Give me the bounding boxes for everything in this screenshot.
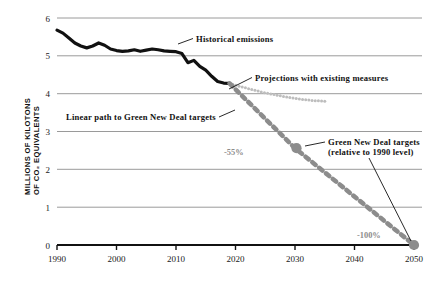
projection-dot — [323, 100, 326, 103]
x-tick-labels: 1990200020102020203020402050 — [48, 254, 424, 264]
leader-linear-path — [219, 110, 235, 117]
projection-dot — [285, 96, 288, 99]
x-tick-2030: 2030 — [286, 254, 305, 264]
projection-dot — [276, 94, 279, 97]
projection-dot — [311, 99, 314, 102]
projection-dot — [279, 94, 282, 97]
projection-dot — [250, 88, 253, 91]
y-tick-5: 5 — [46, 51, 51, 61]
y-tick-2: 2 — [46, 165, 51, 175]
projection-dot — [295, 97, 298, 100]
y-axis-title-line1: MILLIONS OF KILOTONS — [23, 98, 32, 195]
projection-dot — [298, 98, 301, 101]
leader-historical — [178, 39, 193, 45]
emissions-chart: MILLIONS OF KILOTONS OF CO₂ EQUIVALENTS … — [0, 0, 447, 281]
projection-dot — [292, 97, 295, 100]
x-axis — [57, 245, 414, 250]
y-tick-3: 3 — [46, 127, 51, 137]
linear-path-label: Linear path to Green New Deal targets — [66, 112, 216, 122]
projection-dot — [244, 86, 247, 89]
y-tick-4: 4 — [46, 89, 51, 99]
projection-dot — [260, 90, 263, 93]
y-tick-0: 0 — [46, 241, 51, 251]
x-tick-2050: 2050 — [405, 254, 424, 264]
series-linear-path-to-green-new-deal-targets[interactable] — [230, 83, 414, 245]
projection-dot — [257, 90, 260, 93]
projection-dot — [288, 96, 291, 99]
projection-dot — [282, 95, 285, 98]
gnd-targets-label-line2: (relative to 1990 level) — [328, 147, 414, 157]
y-tick-6: 6 — [46, 14, 51, 24]
projection-dot — [314, 99, 317, 102]
historical-emissions-label: Historical emissions — [196, 34, 274, 44]
pct-2050-label: -100% — [357, 231, 381, 240]
projection-dot — [263, 91, 266, 94]
x-tick-2020: 2020 — [227, 254, 246, 264]
y-axis-title-line2: OF CO₂ EQUIVALENTS — [32, 106, 41, 195]
projection-dot — [266, 92, 269, 95]
projection-dot — [320, 100, 323, 103]
pct-2030-label: -55% — [224, 148, 244, 157]
marker-target-2050[interactable] — [409, 240, 419, 250]
projection-dot — [304, 98, 307, 101]
projection-dot — [307, 99, 310, 102]
leader-gnd-2030 — [305, 142, 325, 146]
projection-dot — [272, 93, 275, 96]
projection-dot — [247, 87, 250, 90]
projections-label: Projections with existing measures — [255, 73, 389, 83]
x-tick-2040: 2040 — [346, 254, 365, 264]
y-axis-title: MILLIONS OF KILOTONS OF CO₂ EQUIVALENTS — [23, 98, 41, 195]
projection-dot — [269, 92, 272, 95]
y-tick-labels: 6 5 4 3 2 1 0 — [46, 14, 51, 251]
leader-gnd-2050 — [369, 158, 411, 241]
marker-target-2030[interactable] — [291, 143, 301, 153]
gnd-targets-label-line1: Green New Deal targets — [328, 137, 420, 147]
projection-dot — [238, 85, 241, 88]
projection-dot — [241, 86, 244, 89]
projection-dot — [253, 89, 256, 92]
chart-svg: MILLIONS OF KILOTONS OF CO₂ EQUIVALENTS … — [0, 0, 447, 281]
projection-dot — [301, 98, 304, 101]
y-tick-1: 1 — [46, 203, 51, 213]
x-tick-2010: 2010 — [167, 254, 186, 264]
x-tick-2000: 2000 — [108, 254, 127, 264]
projection-dot — [317, 99, 320, 102]
x-tick-1990: 1990 — [48, 254, 67, 264]
